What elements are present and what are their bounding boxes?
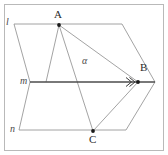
plane-m-n-parallelogram <box>19 82 155 130</box>
geometry-figure: A B C l m n α <box>0 0 168 155</box>
line-label-m: m <box>20 76 27 86</box>
segment-upper-left-edge <box>14 24 30 82</box>
line-label-l: l <box>6 17 9 27</box>
segment-a-to-b <box>59 25 138 82</box>
plane-label-alpha: α <box>82 56 87 66</box>
segment-lower-right-edge <box>126 82 155 130</box>
point-label-a: A <box>54 9 62 20</box>
segment-a-to-c <box>59 25 93 131</box>
segment-a-to-line-m <box>46 25 59 82</box>
point-label-b: B <box>140 62 147 73</box>
segment-b-to-c <box>93 82 138 131</box>
point-label-c: C <box>89 134 96 145</box>
segment-lower-left-edge <box>19 82 30 130</box>
segment-upper-right-edge <box>122 24 155 82</box>
triangle-abc <box>46 25 138 131</box>
point-a-dot <box>57 23 61 27</box>
line-label-n: n <box>10 124 15 134</box>
plane-l-m-parallelogram <box>14 24 155 82</box>
point-b-dot <box>136 80 140 84</box>
